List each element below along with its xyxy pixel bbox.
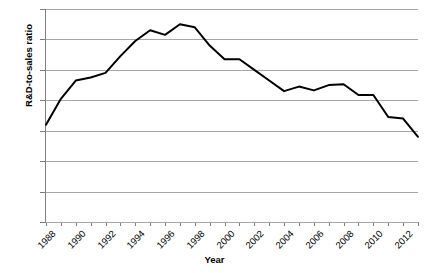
x-tick-label: 2002 xyxy=(237,228,266,257)
x-tick-label: 1996 xyxy=(148,228,177,257)
chart-container: R&D-to-sales ratio Year 0246810121419881… xyxy=(0,0,429,273)
x-tick-label: 2000 xyxy=(207,228,236,257)
y-tick-mark xyxy=(40,70,45,71)
x-tick-label: 2010 xyxy=(356,228,385,257)
y-tick-mark xyxy=(40,222,45,223)
y-tick-mark xyxy=(40,39,45,40)
x-tick-label: 2006 xyxy=(297,228,326,257)
y-tick-mark xyxy=(40,131,45,132)
y-tick-mark xyxy=(40,161,45,162)
plot-area xyxy=(46,9,418,222)
x-tick-label: 1992 xyxy=(88,228,117,257)
data-series-line xyxy=(46,9,418,222)
x-tick-label: 1994 xyxy=(118,228,147,257)
x-tick-label: 1998 xyxy=(178,228,207,257)
x-tick-label: 1990 xyxy=(59,228,88,257)
x-tick-mark xyxy=(418,222,419,226)
x-tick-label: 2004 xyxy=(267,228,296,257)
x-tick-label: 1988 xyxy=(29,228,58,257)
y-tick-mark xyxy=(40,9,45,10)
gridline xyxy=(46,222,418,223)
y-tick-mark xyxy=(40,192,45,193)
y-axis-title: R&D-to-sales ratio xyxy=(23,0,34,146)
x-tick-label: 2012 xyxy=(386,228,415,257)
y-tick-mark xyxy=(40,100,45,101)
x-tick-label: 2008 xyxy=(326,228,355,257)
